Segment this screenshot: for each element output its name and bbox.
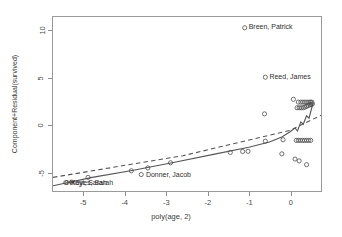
point-label: Breen, Patrick: [249, 23, 293, 30]
labelled-data-point: [243, 26, 247, 30]
data-point: [281, 138, 285, 142]
plot-canvas: [53, 17, 321, 191]
plot-frame: Breen, PatrickReed, JamesDonner, JacobKe…: [52, 16, 322, 192]
y-axis-title: Component+Residual(survived): [11, 55, 18, 153]
data-point: [293, 157, 297, 161]
plot-area: Breen, PatrickReed, JamesDonner, JacobKe…: [53, 17, 321, 191]
x-tick-mark: [166, 192, 167, 196]
trend-line-linear-reference: [53, 115, 321, 177]
component-residual-plot-figure: Breen, PatrickReed, JamesDonner, JacobKe…: [0, 0, 342, 237]
data-point: [246, 149, 250, 153]
data-point: [280, 152, 284, 156]
point-label: Hoyt, Sarah: [70, 179, 107, 186]
x-tick-label: -4: [121, 198, 127, 207]
data-point: [241, 149, 245, 153]
labelled-data-point: [263, 75, 267, 79]
data-point: [297, 159, 301, 163]
x-axis-title: poly(age, 2): [151, 212, 191, 221]
data-point: [262, 112, 266, 116]
x-tick-label: -2: [205, 198, 211, 207]
y-tick-mark: [48, 30, 52, 31]
y-tick-mark: [48, 125, 52, 126]
x-tick-label: -1: [246, 198, 252, 207]
x-tick-label: 0: [289, 198, 293, 207]
data-point: [304, 163, 308, 167]
y-tick-mark: [48, 173, 52, 174]
point-label: Reed, James: [269, 73, 310, 80]
y-tick-label: 0: [36, 124, 45, 128]
x-tick-mark: [249, 192, 250, 196]
x-tick-label: -3: [163, 198, 169, 207]
x-tick-mark: [291, 192, 292, 196]
y-tick-mark: [48, 78, 52, 79]
data-point: [291, 97, 295, 101]
y-tick-label: 10: [38, 27, 47, 35]
x-tick-mark: [83, 192, 84, 196]
y-tick-label: 5: [36, 76, 45, 80]
x-tick-mark: [125, 192, 126, 196]
x-tick-label: -5: [80, 198, 86, 207]
y-tick-label: -5: [37, 170, 46, 176]
x-tick-mark: [208, 192, 209, 196]
labelled-data-point: [139, 172, 143, 176]
point-label: Donner, Jacob: [146, 171, 191, 178]
